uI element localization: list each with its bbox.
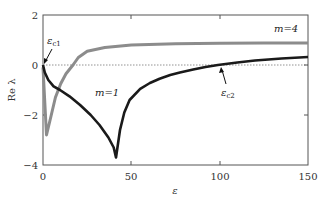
y-tick-label: −2 bbox=[23, 110, 38, 121]
y-tick-label: −4 bbox=[23, 160, 38, 171]
ec2-annotation: εc2 bbox=[219, 67, 235, 100]
m1-label: m=1 bbox=[95, 87, 119, 98]
x-axis-label: ε bbox=[172, 185, 177, 196]
ec1-arrowhead bbox=[44, 58, 48, 64]
x-tick-label: 50 bbox=[125, 171, 138, 182]
x-tick-label: 150 bbox=[298, 171, 317, 182]
ec1-annotation: εc1 bbox=[44, 35, 61, 64]
series-m1-line bbox=[43, 57, 308, 158]
ec1-label: εc1 bbox=[47, 35, 61, 48]
ticks bbox=[43, 15, 308, 165]
ec2-arrowhead bbox=[219, 67, 224, 73]
plot-frame bbox=[43, 15, 308, 165]
y-axis-label: Re λ bbox=[6, 78, 17, 102]
y-tick-label: 0 bbox=[32, 60, 38, 71]
chart: 0 50 100 150 2 0 −2 −4 ε Re λ m=1 m=4 εc… bbox=[0, 0, 327, 202]
x-tick-label: 100 bbox=[210, 171, 229, 182]
m4-label: m=4 bbox=[274, 23, 298, 34]
ec2-label: εc2 bbox=[221, 87, 235, 100]
y-tick-label: 2 bbox=[32, 10, 38, 21]
series-m4-line bbox=[43, 43, 308, 135]
x-tick-label: 0 bbox=[40, 171, 46, 182]
